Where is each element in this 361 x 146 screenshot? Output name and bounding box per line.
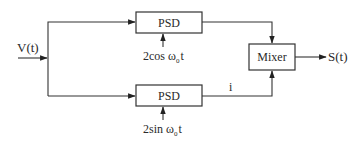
psd-top-label: PSD — [158, 16, 180, 30]
psd-block-top: PSD — [136, 12, 202, 33]
psd-mixer-block-diagram: V(t) PSD 2cos ω0t PSD 2sin ω0t i Mixer S… — [0, 0, 361, 146]
signal-i-label: i — [229, 80, 233, 94]
input-label: V(t) — [17, 40, 39, 55]
mixer-block: Mixer — [249, 44, 295, 70]
output-label: S(t) — [328, 49, 348, 64]
ref-label-top: 2cos ω0t — [143, 49, 184, 65]
psd-block-bottom: PSD — [136, 85, 202, 106]
wire-to-top-psd — [48, 22, 135, 96]
ref-label-bottom: 2sin ω0t — [143, 122, 182, 138]
wire-bottom-psd-to-mixer — [202, 71, 272, 96]
psd-bottom-label: PSD — [158, 89, 180, 103]
mixer-label: Mixer — [257, 50, 286, 64]
wire-top-psd-to-mixer — [202, 22, 272, 43]
